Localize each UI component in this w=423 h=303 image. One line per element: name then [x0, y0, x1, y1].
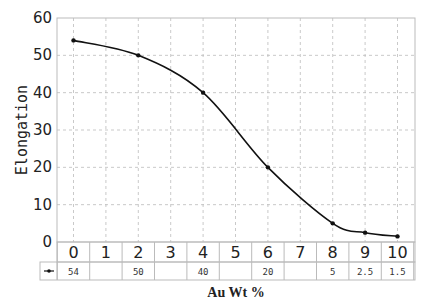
elongation-chart: 0102030405060 Elongation 012345678910545…: [0, 0, 423, 303]
data-point: [266, 165, 270, 169]
y-tick-label: 10: [33, 196, 52, 214]
data-point: [331, 221, 335, 225]
data-point: [395, 234, 399, 238]
y-tick-label: 30: [33, 121, 52, 139]
data-point: [71, 38, 75, 42]
y-axis-label: Elongation: [13, 85, 31, 175]
table-value: 54: [68, 267, 79, 277]
data-point: [136, 53, 140, 57]
legend-marker-icon: [44, 269, 54, 273]
x-category-label: 9: [360, 243, 370, 262]
y-tick-label: 20: [33, 158, 52, 176]
table-value: 20: [262, 267, 273, 277]
table-value: 50: [133, 267, 144, 277]
x-category-label: 4: [198, 243, 208, 262]
table-value: 5: [330, 267, 335, 277]
x-category-label: 7: [295, 243, 305, 262]
x-category-label: 10: [387, 243, 407, 262]
y-tick-label: 0: [42, 233, 52, 251]
y-axis-ticks: 0102030405060: [33, 9, 52, 251]
x-category-label: 1: [101, 243, 111, 262]
data-point: [201, 90, 205, 94]
x-axis-label: Au Wt %: [207, 285, 264, 300]
x-category-label: 0: [68, 243, 78, 262]
x-category-label: 3: [166, 243, 176, 262]
x-category-label: 6: [263, 243, 273, 262]
x-category-label: 5: [230, 243, 240, 262]
y-tick-label: 50: [33, 46, 52, 64]
table-value: 2.5: [357, 267, 373, 277]
y-tick-label: 60: [33, 9, 52, 27]
x-category-label: 8: [328, 243, 338, 262]
data-point: [363, 230, 367, 234]
y-tick-label: 40: [33, 84, 52, 102]
data-table: 0123456789105450402052.51.5: [40, 242, 415, 280]
table-value: 40: [198, 267, 209, 277]
x-category-label: 2: [133, 243, 143, 262]
table-value: 1.5: [389, 267, 405, 277]
